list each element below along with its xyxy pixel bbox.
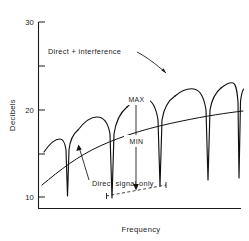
annotation-direct-plus-interference: Direct + interference [48, 47, 166, 73]
y-tick-label-10: 10 [25, 193, 34, 202]
max-label: MAX [128, 96, 144, 103]
y-tick-label-20: 20 [25, 106, 34, 115]
direct-signal-only-arrowhead [76, 145, 81, 152]
direct-plus-interference-arrowhead [162, 68, 167, 73]
direct-signal-only-label: Direct signal only [92, 179, 154, 188]
chart-canvas: 30 20 10 Decibels Frequency Direct + int… [0, 0, 249, 241]
y-tick-labels: 30 20 10 [25, 18, 34, 202]
direct-plus-interference-leader [137, 52, 166, 73]
x-axis-title: Frequency [121, 225, 160, 234]
y-axis-title: Decibels [8, 99, 17, 131]
y-tick-label-30: 30 [25, 18, 34, 27]
min-label: MIN [130, 138, 144, 145]
annotation-direct-signal-only: Direct signal only [76, 145, 154, 189]
interference-pattern-chart: 30 20 10 Decibels Frequency Direct + int… [0, 0, 249, 241]
direct-plus-interference-label: Direct + interference [48, 47, 121, 56]
direct-signal-only-curve [42, 111, 243, 185]
